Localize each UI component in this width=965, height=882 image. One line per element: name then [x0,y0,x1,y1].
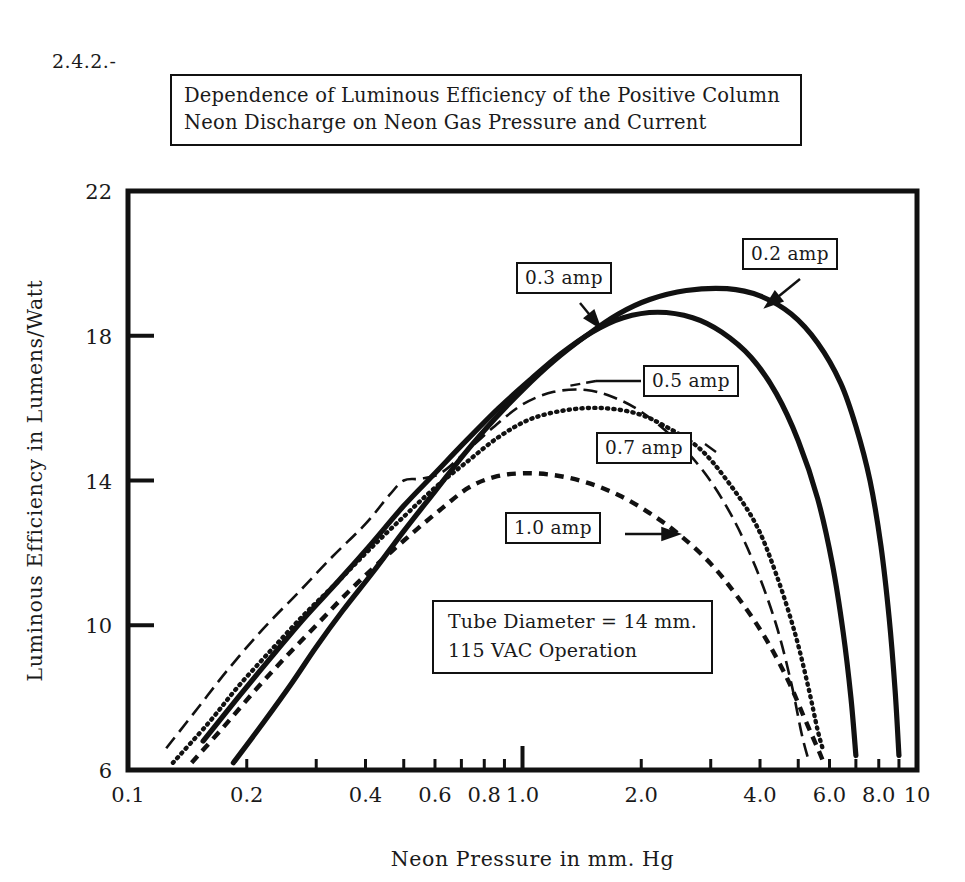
callout-0.5-amp: 0.5 amp [643,365,739,397]
callout-leader-lines [568,279,800,541]
y-tick-label-10: 10 [85,614,112,638]
x-tick-label-0.1: 0.1 [111,783,144,807]
y-tick-label-6: 6 [99,759,112,783]
x-tick-label-0.2: 0.2 [230,783,263,807]
y-axis-tick-labels: 610141822 [85,180,112,783]
x-tick-label-4.0: 4.0 [743,783,776,807]
x-tick-label-8.0: 8.0 [862,783,895,807]
x-tick-label-10: 10 [904,783,931,807]
x-tick-label-2.0: 2.0 [625,783,658,807]
callout-1.0-amp: 1.0 amp [505,512,601,544]
callout-0.3-amp: 0.3 amp [516,262,612,294]
callout-0.7-amp: 0.7 amp [596,432,692,464]
y-axis-title: Luminous Efficiency in Lumens/Watt [23,279,47,681]
chart-note-box: Tube Diameter = 14 mm. 115 VAC Operation [432,600,713,674]
x-tick-label-0.6: 0.6 [418,783,451,807]
x-axis-tick-labels: 0.10.20.40.60.81.02.04.06.08.010 [111,783,930,807]
x-tick-label-6.0: 6.0 [813,783,846,807]
y-axis-ticks [128,336,154,626]
callout-0.2-amp: 0.2 amp [742,238,838,270]
x-tick-label-0.8: 0.8 [468,783,501,807]
page-root: 2.4.2.- Dependence of Luminous Efficienc… [0,0,965,882]
y-tick-label-14: 14 [85,470,112,494]
y-tick-label-18: 18 [85,325,112,349]
chart-svg: 0.10.20.40.60.81.02.04.06.08.010 6101418… [0,0,965,882]
note-line-1: Tube Diameter = 14 mm. [448,607,697,636]
x-axis-title: Neon Pressure in mm. Hg [391,847,675,871]
x-tick-label-0.4: 0.4 [349,783,382,807]
plot-area-wrapper: 0.10.20.40.60.81.02.04.06.08.010 6101418… [0,0,965,882]
callout-arrowhead [583,309,602,330]
note-line-2: 115 VAC Operation [448,636,697,665]
y-tick-label-22: 22 [85,180,112,204]
x-tick-label-1.0: 1.0 [506,783,539,807]
